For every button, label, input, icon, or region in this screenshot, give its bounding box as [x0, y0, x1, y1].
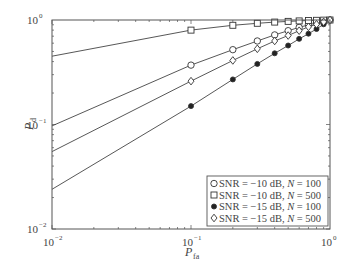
legend: SNR = −10 dB, N = 100SNR = −10 dB, N = 5…	[207, 176, 328, 226]
star-marker	[212, 204, 217, 209]
circle-marker	[230, 46, 236, 52]
y-axis-label-main: P	[22, 122, 36, 131]
legend-entry: SNR = −15 dB, N = 500	[219, 213, 321, 224]
x-tick-label: 10	[43, 236, 55, 248]
y-tick-label: 10	[27, 223, 39, 235]
x-tick-label-exp: −1	[194, 234, 202, 242]
square-marker	[230, 22, 236, 28]
square-marker	[254, 20, 260, 26]
square-marker	[296, 18, 302, 24]
circle-marker	[188, 62, 194, 68]
legend-entry: SNR = −10 dB, N = 500	[219, 190, 321, 201]
legend-entry: SNR = −15 dB, N = 100	[219, 201, 321, 212]
x-axis-label-sub: fa	[193, 252, 200, 261]
circle-marker	[211, 180, 217, 186]
log-log-plot: 10−210−110010−210−1100 P fa P d SNR = −1…	[0, 0, 345, 273]
y-axis-label-sub: d	[29, 118, 38, 122]
y-tick-label-exp: 0	[39, 12, 43, 20]
diamond-marker	[254, 45, 260, 53]
y-tick-label-exp: −2	[39, 221, 47, 229]
x-axis-label: P fa	[184, 245, 200, 261]
x-tick-label-exp: 0	[333, 234, 337, 242]
star-marker	[297, 36, 302, 41]
star-marker	[286, 43, 291, 48]
square-marker	[285, 18, 291, 24]
square-marker	[211, 192, 217, 198]
y-axis-label: P d	[22, 118, 38, 131]
star-marker	[230, 77, 235, 82]
chart-container: 10−210−110010−210−1100 P fa P d SNR = −1…	[0, 0, 345, 273]
legend-entry: SNR = −10 dB, N = 100	[219, 178, 321, 189]
y-tick-label-exp: −1	[39, 117, 47, 125]
star-marker	[255, 61, 260, 66]
y-tick-label: 10	[27, 14, 39, 26]
star-marker	[306, 31, 311, 36]
diamond-marker	[230, 57, 236, 65]
star-marker	[272, 51, 277, 56]
diamond-marker	[272, 37, 278, 45]
square-marker	[188, 27, 194, 33]
star-marker	[189, 104, 194, 109]
x-tick-label: 10	[321, 236, 333, 248]
x-axis-label-main: P	[184, 245, 193, 259]
circle-marker	[254, 38, 260, 44]
x-tick-label-exp: −2	[55, 234, 63, 242]
diamond-marker	[188, 77, 194, 85]
